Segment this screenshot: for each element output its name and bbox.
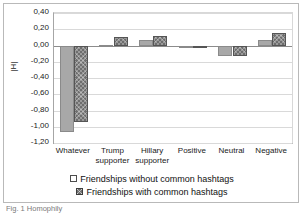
- bar: [193, 46, 207, 48]
- x-axis-category: Whatever: [53, 146, 93, 156]
- x-axis-tick-label: Whatever: [53, 146, 93, 156]
- legend-item-label: Friendships with common hashtags: [86, 187, 227, 197]
- gridline: [54, 29, 292, 30]
- zero-axis-line: [54, 46, 292, 47]
- legend-item-label: Friendships without common hashtags: [80, 174, 234, 184]
- figure-caption: Fig. 1 Homophily: [6, 205, 298, 213]
- bar: [139, 40, 153, 46]
- x-axis-tick-label: Trump: [93, 146, 133, 156]
- gridline: [54, 127, 292, 128]
- bar: [272, 33, 286, 45]
- x-axis-tick-label: Hillary: [132, 146, 172, 156]
- y-axis-tick-label: -0,40: [31, 73, 49, 81]
- figure-frame: |H| 0,400,200,00-0,20-0,40-0,60-0,80-1,0…: [3, 3, 299, 203]
- x-axis-tick-label: supporter: [132, 156, 172, 166]
- y-axis-tick-label: -0,80: [31, 106, 49, 114]
- x-axis-category: Hillarysupporter: [132, 146, 172, 165]
- y-axis-tick-label: 0,00: [33, 41, 49, 49]
- gridline: [54, 111, 292, 112]
- x-axis-category: Negative: [251, 146, 291, 156]
- x-axis-category: Neutral: [212, 146, 252, 156]
- chart-legend: Friendships without common hashtags Frie…: [4, 172, 300, 198]
- x-axis-tick-label: Negative: [251, 146, 291, 156]
- gridline: [54, 78, 292, 79]
- bar: [114, 37, 128, 45]
- y-axis-tick-label: -0,20: [31, 57, 49, 65]
- legend-item: Friendships with common hashtags: [4, 185, 300, 198]
- bar: [153, 36, 167, 46]
- gridline: [54, 13, 292, 14]
- gridline: [54, 94, 292, 95]
- bar: [258, 40, 272, 46]
- chart-area: |H| 0,400,200,00-0,20-0,40-0,60-0,80-1,0…: [4, 4, 300, 156]
- gridline: [54, 62, 292, 63]
- bar: [179, 46, 193, 48]
- x-axis-category: Positive: [172, 146, 212, 156]
- x-axis-tick-label: Neutral: [212, 146, 252, 156]
- y-axis-tick-label: 0,20: [33, 24, 49, 32]
- x-axis-tick-label: Positive: [172, 146, 212, 156]
- gridline: [54, 143, 292, 144]
- bar: [74, 46, 88, 122]
- x-axis-tick-label: supporter: [93, 156, 133, 166]
- y-axis-tick-label: -1,00: [31, 122, 49, 130]
- legend-swatch-icon: [70, 175, 77, 182]
- bar: [233, 46, 247, 57]
- legend-swatch-icon: [76, 188, 83, 195]
- legend-item: Friendships without common hashtags: [4, 172, 300, 185]
- figure: |H| 0,400,200,00-0,20-0,40-0,60-0,80-1,0…: [0, 0, 302, 213]
- x-axis-category: Trumpsupporter: [93, 146, 133, 165]
- bar: [60, 46, 74, 132]
- y-axis-label: |H|: [9, 60, 18, 74]
- y-axis-tick-label: -0,60: [31, 89, 49, 97]
- bar: [99, 45, 113, 47]
- y-axis-tick-label: 0,40: [33, 8, 49, 16]
- bar: [218, 46, 232, 57]
- y-axis-tick-label: -1,20: [31, 138, 49, 146]
- x-axis-labels: WhateverTrumpsupporterHillarysupporterPo…: [53, 146, 293, 170]
- plot-area: [53, 12, 293, 144]
- y-axis-ticks: 0,400,200,00-0,20-0,40-0,60-0,80-1,00-1,…: [18, 12, 51, 144]
